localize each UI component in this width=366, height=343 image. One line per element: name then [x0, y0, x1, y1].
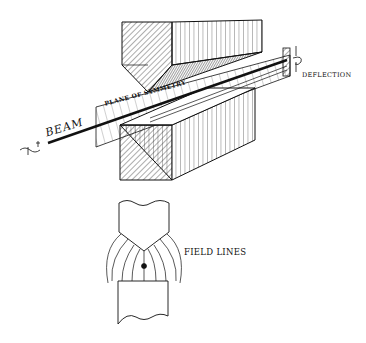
detector-screen — [283, 46, 301, 76]
field-lines-label: FIELD LINES — [184, 248, 246, 257]
deflection-diagram — [0, 0, 366, 343]
cross-section-top-pole — [119, 201, 169, 252]
cross-section-bottom-pole — [118, 281, 168, 324]
deflection-label: DEFLECTION — [302, 72, 351, 79]
